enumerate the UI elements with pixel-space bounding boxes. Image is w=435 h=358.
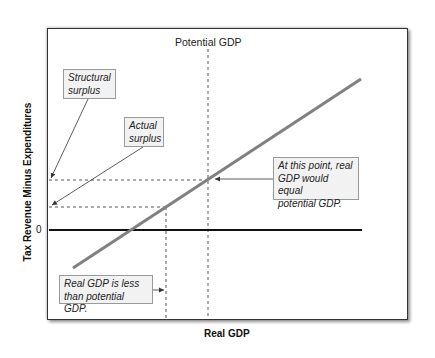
potential-point-callout: At this point, real GDP would equal pote…	[273, 157, 359, 200]
actual-surplus-callout: Actual surplus	[124, 117, 164, 147]
actual-surplus-arrow	[52, 147, 143, 205]
structural-surplus-callout: Structural surplus	[63, 69, 116, 99]
structural-surplus-arrow	[51, 99, 88, 178]
potential-gdp-label: Potential GDP	[175, 36, 242, 48]
real-gdp-less-callout: Real GDP is less than potential GDP.	[59, 275, 153, 304]
zero-tick-label: 0	[36, 224, 42, 235]
x-axis-label: Real GDP	[204, 328, 250, 339]
y-axis-label: Tax Revenue Minus Expenditures	[22, 103, 33, 262]
